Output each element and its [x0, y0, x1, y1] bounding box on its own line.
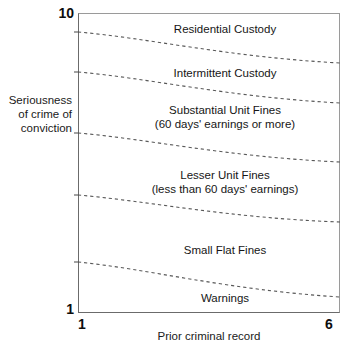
x-axis-title: Prior criminal record — [78, 330, 340, 343]
sentencing-grid-figure: Residential Custody Intermittent Custody… — [0, 0, 358, 351]
y-axis-title: Seriousness of crime of conviction — [0, 93, 72, 135]
boundary-curve-3 — [78, 133, 340, 162]
band-label-lesser-unit-fines: Lesser Unit Fines (less than 60 days' ea… — [105, 169, 345, 196]
x-axis-max-label: 6 — [325, 317, 333, 331]
band-label-small-flat-fines: Small Flat Fines — [105, 244, 345, 258]
boundary-curve-1 — [78, 32, 340, 63]
boundary-curve-4 — [78, 195, 340, 222]
band-label-substantial-unit-fines: Substantial Unit Fines (60 days' earning… — [105, 104, 345, 131]
band-label-warnings: Warnings — [105, 292, 345, 306]
band-label-intermittent-custody: Intermittent Custody — [105, 67, 345, 81]
boundary-curves — [78, 13, 340, 313]
band-label-residential-custody: Residential Custody — [105, 23, 345, 37]
y-axis-max-label: 10 — [54, 6, 74, 20]
y-axis-min-label: 1 — [54, 302, 74, 316]
x-axis-min-label: 1 — [78, 317, 86, 331]
